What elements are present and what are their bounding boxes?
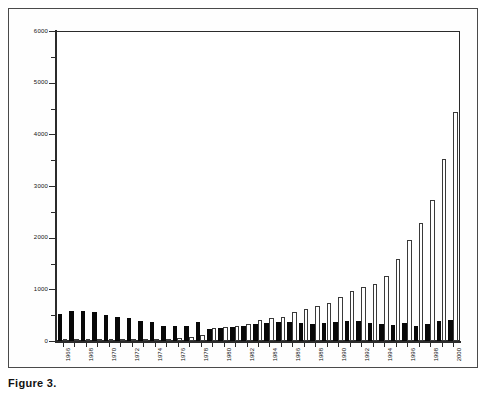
bar-group — [253, 31, 263, 341]
bar-white — [235, 326, 240, 342]
x-axis-tick — [304, 343, 305, 347]
bar-black — [437, 321, 442, 341]
bar-black — [425, 324, 430, 341]
y-axis-tick-label: 3000 — [2, 183, 48, 190]
x-axis-tick — [315, 343, 316, 347]
bar-group — [230, 31, 240, 341]
x-axis-tick — [430, 343, 431, 347]
x-axis-tick — [132, 343, 133, 347]
bar-black — [196, 322, 201, 341]
bar-white — [131, 339, 136, 341]
x-axis-tick — [258, 343, 259, 347]
x-axis-tick — [224, 343, 225, 347]
bar-black — [218, 328, 223, 341]
bar-group — [207, 31, 217, 341]
bar-white — [304, 309, 309, 341]
bar-white — [166, 339, 171, 341]
x-axis-tick-label: 1990 — [341, 348, 347, 361]
bar-black — [127, 318, 132, 341]
y-axis-minor-tick — [51, 212, 55, 213]
bar-white — [315, 306, 320, 341]
x-axis-tick — [396, 343, 397, 347]
y-axis-tick-label: 6000 — [2, 28, 48, 35]
x-axis-tick — [201, 343, 202, 347]
bar-group — [58, 31, 68, 341]
x-axis-tick — [155, 343, 156, 347]
bar-white — [373, 284, 378, 341]
bar-black — [368, 323, 373, 341]
bar-group — [276, 31, 286, 341]
bar-group — [391, 31, 401, 341]
x-axis-tick — [86, 343, 87, 347]
bar-group — [310, 31, 320, 341]
bar-white — [97, 339, 102, 341]
bar-group — [69, 31, 79, 341]
x-axis-tick — [327, 343, 328, 347]
y-axis-tick — [49, 186, 55, 187]
x-axis-tick-label: 1998 — [433, 348, 439, 361]
bar-black — [253, 324, 258, 341]
bar-white — [350, 291, 355, 341]
bar-white — [396, 259, 401, 341]
bar-group — [241, 31, 251, 341]
bar-black — [264, 323, 269, 341]
bar-white — [143, 339, 148, 341]
x-axis-tick — [350, 343, 351, 347]
bar-group — [150, 31, 160, 341]
x-axis-tick-label: 1996 — [410, 348, 416, 361]
bar-black — [322, 323, 327, 341]
bar-group — [184, 31, 194, 341]
bar-white — [361, 287, 366, 341]
bar-black — [138, 321, 143, 341]
bar-white — [453, 112, 458, 341]
bar-black — [92, 312, 97, 341]
bar-black — [287, 322, 292, 341]
bar-white — [407, 240, 412, 341]
bar-group — [138, 31, 148, 341]
bar-group — [356, 31, 366, 341]
bar-white — [258, 320, 263, 341]
bar-white — [292, 312, 297, 341]
bar-black — [184, 326, 189, 342]
bar-group — [92, 31, 102, 341]
x-axis-tick — [212, 343, 213, 347]
y-axis-minor-tick — [51, 57, 55, 58]
y-axis-minor-tick — [51, 264, 55, 265]
x-axis-tick — [373, 343, 374, 347]
bar-black — [391, 325, 396, 341]
x-axis-tick — [109, 343, 110, 347]
bar-black — [414, 326, 419, 341]
bars-container — [57, 31, 459, 341]
x-axis-tick — [407, 343, 408, 347]
bar-black — [173, 326, 178, 342]
bar-white — [327, 303, 332, 341]
bar-group — [448, 31, 458, 341]
x-axis-tick-label: 1968 — [88, 348, 94, 361]
x-axis-tick-label: 1970 — [111, 348, 117, 361]
bar-group — [345, 31, 355, 341]
x-axis-tick — [419, 343, 420, 347]
bar-white — [442, 159, 447, 341]
figure-root: 0100020003000400050006000 19661968197019… — [0, 0, 489, 398]
y-axis-tick-label: 5000 — [2, 79, 48, 86]
bar-black — [345, 321, 350, 341]
bar-group — [402, 31, 412, 341]
bar-white — [430, 200, 435, 341]
bar-black — [69, 311, 74, 341]
bar-white — [200, 335, 205, 341]
bar-black — [241, 326, 246, 342]
bar-group — [264, 31, 274, 341]
bar-white — [154, 339, 159, 341]
y-axis-tick-label: 2000 — [2, 234, 48, 241]
x-axis-tick-label: 1966 — [65, 348, 71, 361]
bar-white — [74, 339, 79, 341]
bar-white — [246, 324, 251, 341]
bar-group — [173, 31, 183, 341]
y-axis-tick-label: 4000 — [2, 131, 48, 138]
y-axis-minor-tick — [51, 109, 55, 110]
bar-group — [287, 31, 297, 341]
bar-group — [322, 31, 332, 341]
bar-black — [58, 314, 63, 341]
bar-black — [333, 322, 338, 341]
x-axis-tick — [143, 343, 144, 347]
